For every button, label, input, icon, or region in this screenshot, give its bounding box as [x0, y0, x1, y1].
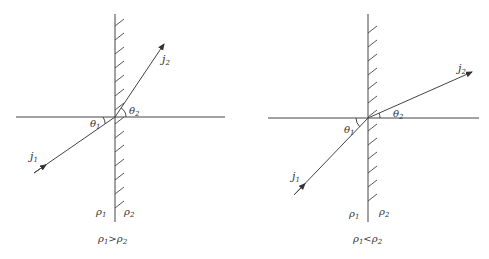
panel-right: [268, 14, 479, 222]
svg-text:ρ1: ρ1: [348, 208, 359, 221]
current-refraction-diagram: j2 j1 θ1 θ2 ρ1 ρ2 ρ1>ρ2: [0, 0, 489, 259]
svg-text:θ1: θ1: [344, 124, 355, 137]
panel-left: [16, 14, 225, 222]
hatching: [115, 19, 124, 208]
svg-text:j1: j1: [289, 170, 300, 184]
refracted-current-j2: [368, 72, 472, 118]
svg-text:ρ2: ρ2: [123, 206, 135, 219]
panel-left-labels: j2 j1 θ1 θ2 ρ1 ρ2 ρ1>ρ2: [27, 53, 170, 246]
svg-text:ρ2: ρ2: [378, 206, 390, 219]
svg-text:j2: j2: [159, 53, 170, 67]
svg-text:ρ1: ρ1: [95, 206, 106, 219]
caption-right: ρ1<ρ2: [352, 233, 383, 246]
hatching: [368, 26, 377, 201]
theta1-arc: [103, 117, 105, 124]
incident-current-j1: [294, 118, 368, 195]
svg-text:θ2: θ2: [393, 108, 404, 121]
svg-text:θ1: θ1: [90, 118, 101, 131]
caption-left: ρ1>ρ2: [97, 233, 128, 246]
incident-current-j1: [34, 117, 115, 173]
svg-text:θ2: θ2: [129, 105, 140, 118]
panel-right-labels: j2 j1 θ1 θ2 ρ1 ρ2 ρ1<ρ2: [289, 62, 466, 246]
svg-text:j2: j2: [455, 62, 466, 76]
svg-text:j1: j1: [27, 150, 38, 164]
theta2-arc: [121, 108, 126, 117]
theta2-arc: [379, 113, 380, 118]
refracted-current-j2: [115, 44, 164, 117]
theta1-arc: [356, 118, 360, 127]
